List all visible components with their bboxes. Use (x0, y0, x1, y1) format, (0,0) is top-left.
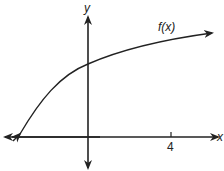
curve-label: f(x) (158, 20, 175, 34)
curve-f (20, 33, 212, 134)
y-axis-label: y (83, 1, 91, 15)
graph: y x f(x) 4 (0, 0, 224, 171)
x-tick-label: 4 (167, 140, 174, 154)
x-axis-label: x (216, 130, 224, 144)
